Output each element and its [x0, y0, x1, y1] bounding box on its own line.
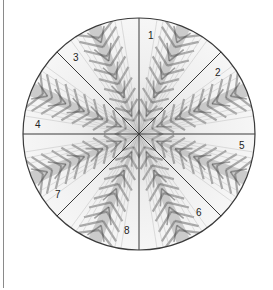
sector-label-1: 1 — [148, 30, 154, 41]
sector-dividers — [23, 18, 255, 250]
sector-label-3: 3 — [73, 52, 79, 63]
sector-label-6: 6 — [196, 207, 202, 218]
sector-label-5: 5 — [239, 140, 245, 151]
sector-label-2: 2 — [215, 67, 221, 78]
sector-label-8: 8 — [124, 225, 130, 236]
segmented-circle-figure: 1 2 3 4 5 6 7 8 — [0, 0, 273, 290]
sector-label-7: 7 — [55, 189, 61, 200]
sector-label-4: 4 — [35, 119, 41, 130]
